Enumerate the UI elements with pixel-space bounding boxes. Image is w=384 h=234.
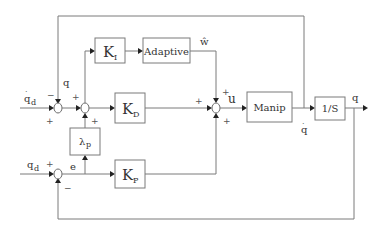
arrowhead: [310, 105, 315, 111]
summing-junction-2: [81, 103, 89, 113]
arrowhead: [138, 48, 143, 54]
adaptive-label: Adaptive: [143, 46, 189, 57]
ki-subscript: I: [114, 53, 117, 62]
sum2-to-ki-path: [85, 48, 95, 103]
qd-label: q: [27, 159, 34, 170]
arrowhead: [110, 171, 115, 177]
sum1-left-sign: +: [46, 116, 54, 126]
summing-junction-4: [54, 169, 62, 179]
arrowhead: [82, 155, 88, 160]
bottom-feedback-path: [55, 108, 354, 219]
arrowhead: [82, 113, 88, 118]
input-qd-dot-line: [20, 105, 54, 111]
sum3-bottom-sign: +: [223, 116, 231, 126]
q-feedback-label: q: [63, 77, 70, 88]
sum4-left-sign: +: [46, 159, 54, 169]
sum4-bottom-sign: −: [64, 183, 72, 193]
qd-dot-dot: ·: [25, 87, 28, 96]
summing-junction-1: [54, 103, 62, 113]
sum1-top-sign: −: [47, 90, 55, 100]
kp-to-sum3-path: [145, 113, 219, 174]
arrowhead: [49, 171, 54, 177]
kd-subscript: D: [133, 110, 139, 119]
lambda-p-subscript: p: [86, 140, 91, 149]
qd-dot-subscript: d: [31, 98, 36, 107]
arrowhead: [207, 105, 212, 111]
arrowhead: [363, 105, 368, 111]
sum3-left-sign: +: [195, 96, 203, 106]
integrator-label: 1/S: [322, 103, 339, 114]
sum2-left-sign: +: [72, 92, 80, 102]
kp-subscript: P: [133, 176, 139, 185]
arrowhead: [76, 105, 81, 111]
lambda-p-label: λ: [79, 136, 86, 147]
summing-junction-3: [212, 103, 220, 113]
block-diagram: K I Adaptive ŵ K D u Manip q · 1/S q q d: [0, 0, 384, 234]
manip-label: Manip: [253, 102, 285, 113]
arrowhead: [242, 105, 247, 111]
q-out-label: q: [352, 92, 359, 103]
w-hat-label: ŵ: [200, 36, 209, 47]
qd-subscript: d: [34, 164, 39, 173]
sum2-bottom-sign: +: [91, 116, 99, 126]
e-label: e: [70, 161, 76, 172]
sum3-top-sign: +: [222, 87, 230, 97]
q-dot-dot: ·: [302, 119, 305, 128]
arrowhead: [110, 105, 115, 111]
